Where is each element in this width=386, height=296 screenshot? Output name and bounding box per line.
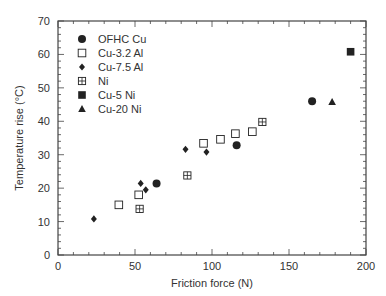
legend-label: OFHC Cu	[98, 33, 146, 45]
legend-label: Cu-3.2 Al	[98, 47, 143, 59]
legend-item-cu-20-ni: Cu-20 Ni	[78, 103, 141, 115]
legend-item-cu-5-ni: Cu-5 Ni	[78, 89, 135, 101]
legend-marker-ofhc-cu	[78, 35, 86, 43]
y-tick-label: 30	[38, 149, 50, 161]
point-cu-3-2-al	[232, 130, 240, 138]
y-tick-label: 20	[38, 182, 50, 194]
point-cu-3-2-al	[115, 201, 123, 209]
y-tick-label: 60	[38, 48, 50, 60]
legend-marker-cu-3-2-al	[78, 49, 86, 57]
y-tick-label: 10	[38, 216, 50, 228]
data-points	[91, 48, 355, 223]
point-cu-3-2-al	[249, 128, 257, 136]
y-axis-label: Temperature rise (°C)	[13, 85, 25, 190]
point-cu-3-2-al	[200, 140, 208, 148]
legend: OFHC CuCu-3.2 AlCu-7.5 AlNiCu-5 NiCu-20 …	[78, 33, 146, 115]
point-ni	[259, 118, 266, 125]
legend-marker-ni	[78, 77, 85, 84]
point-cu-5-ni	[347, 48, 355, 56]
scatter-chart: 050100150200010203040506070 Friction for…	[0, 0, 386, 296]
y-tick-label: 0	[44, 249, 50, 261]
point-cu-7-5-al	[91, 215, 97, 222]
point-cu-3-2-al	[217, 136, 225, 144]
point-cu-3-2-al	[135, 191, 143, 199]
legend-label: Ni	[98, 75, 108, 87]
legend-marker-cu-20-ni	[78, 105, 86, 112]
legend-label: Cu-7.5 Al	[98, 61, 143, 73]
x-tick-label: 0	[55, 260, 61, 272]
legend-item-ni: Ni	[78, 75, 108, 87]
point-cu-7-5-al	[143, 186, 149, 193]
legend-marker-cu-5-ni	[78, 91, 86, 99]
point-cu-20-ni	[328, 98, 336, 105]
x-axis-label: Friction force (N)	[171, 277, 253, 289]
x-tick-label: 100	[203, 260, 221, 272]
point-ni	[136, 205, 143, 212]
point-ofhc-cu	[153, 179, 161, 187]
legend-label: Cu-5 Ni	[98, 89, 135, 101]
legend-item-cu-3-2-al: Cu-3.2 Al	[78, 47, 143, 59]
y-tick-label: 50	[38, 82, 50, 94]
x-tick-label: 150	[280, 260, 298, 272]
point-ofhc-cu	[233, 141, 241, 149]
point-cu-7-5-al	[138, 180, 144, 187]
x-tick-label: 50	[129, 260, 141, 272]
legend-label: Cu-20 Ni	[98, 103, 141, 115]
point-ni	[184, 172, 191, 179]
legend-item-ofhc-cu: OFHC Cu	[78, 33, 146, 45]
legend-marker-cu-7-5-al	[79, 63, 85, 70]
legend-item-cu-7-5-al: Cu-7.5 Al	[79, 61, 143, 73]
point-ofhc-cu	[308, 97, 316, 105]
y-tick-label: 40	[38, 115, 50, 127]
y-tick-label: 70	[38, 15, 50, 27]
point-cu-7-5-al	[203, 148, 209, 155]
point-cu-7-5-al	[183, 146, 189, 153]
x-tick-label: 200	[357, 260, 375, 272]
